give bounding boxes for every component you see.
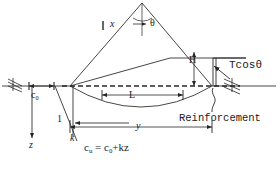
eq-cu-subscript: u — [89, 147, 92, 154]
label-depth-z: z — [29, 140, 33, 150]
label-c0: c0 — [31, 90, 39, 101]
label-tension-horizontal: Tcosθ — [229, 60, 262, 71]
engineering-diagram: x θ H Tcosθ L y c0 1 k z cu = c0+kz Rein… — [0, 0, 280, 173]
slip-surface-arc — [70, 86, 212, 107]
reinforcement-leader-squiggle — [212, 88, 215, 112]
eq-equals: = — [95, 141, 101, 153]
diagram-canvas — [0, 0, 280, 173]
failure-wedge-outline — [70, 3, 212, 86]
label-x: x — [110, 19, 114, 29]
label-slope-one: 1 — [57, 114, 62, 124]
eq-plus-kz: +kz — [112, 141, 129, 153]
label-slope-k: k — [70, 133, 74, 143]
inner-wedge-chord — [70, 58, 246, 86]
label-L: L — [129, 90, 135, 100]
label-strength-equation: cu = c0+kz — [84, 142, 129, 155]
label-reinforcement: Reinforcement — [179, 113, 261, 124]
left-support-hatch-icon — [8, 78, 22, 92]
label-theta: θ — [150, 18, 155, 28]
label-c0-subscript: 0 — [35, 94, 38, 101]
label-H: H — [189, 55, 196, 65]
label-y: y — [136, 121, 140, 131]
